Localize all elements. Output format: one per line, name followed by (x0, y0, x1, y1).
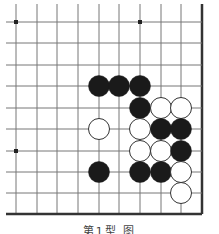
white-stone (171, 183, 192, 204)
black-stone (130, 76, 151, 97)
diagram-caption: 第1型 图 (0, 226, 219, 234)
white-stone (130, 119, 151, 140)
black-stone (171, 119, 192, 140)
white-stone (151, 141, 172, 162)
white-stone (171, 162, 192, 183)
black-stone (89, 76, 110, 97)
white-stone (151, 98, 172, 119)
black-stone (151, 119, 172, 140)
go-board (0, 0, 219, 220)
black-stone (89, 162, 110, 183)
white-stone (171, 98, 192, 119)
star-point (14, 149, 18, 153)
black-stone (130, 162, 151, 183)
star-point (138, 20, 142, 24)
star-point (14, 20, 18, 24)
black-stone (151, 162, 172, 183)
black-stone (171, 141, 192, 162)
black-stone (130, 98, 151, 119)
white-stone (130, 141, 151, 162)
white-stone (89, 119, 110, 140)
black-stone (109, 76, 130, 97)
